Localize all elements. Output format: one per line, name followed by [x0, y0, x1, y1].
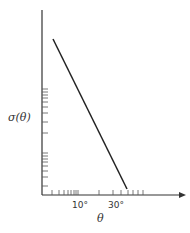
x-axis-label: θ	[97, 212, 104, 225]
y-axis-ticks	[42, 89, 48, 186]
data-line	[53, 39, 127, 189]
chart-figure: 10° 30° θ σ(θ)	[0, 0, 190, 233]
x-tick-label-30: 30°	[108, 200, 124, 210]
x-axis-ticks	[52, 190, 143, 195]
chart-svg: 10° 30° θ σ(θ)	[0, 0, 190, 233]
x-tick-label-10: 10°	[72, 200, 88, 210]
y-axis-label: σ(θ)	[8, 111, 31, 124]
x-axis-arrow-icon	[179, 192, 186, 198]
